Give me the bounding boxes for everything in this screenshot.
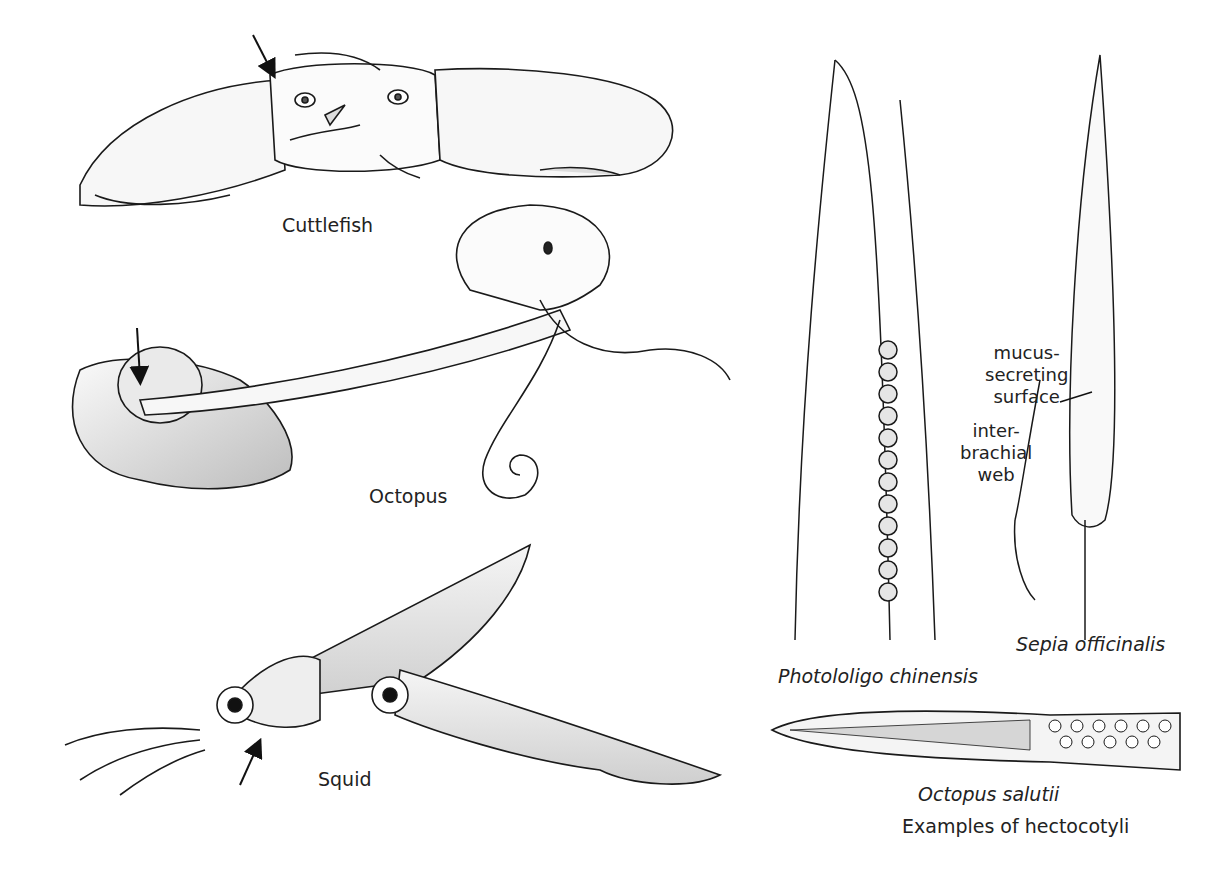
squid-drawing — [65, 545, 720, 795]
octopus-drawing — [73, 205, 731, 498]
label-octopus: Octopus — [369, 485, 447, 507]
label-octopus-salutii: Octopus salutii — [918, 783, 1059, 805]
figure-canvas: Cuttlefish Octopus Squid Photololigo chi… — [0, 0, 1223, 880]
cuttlefish-drawing — [80, 53, 673, 206]
annotation-interbrachial-web: inter- brachial web — [960, 420, 1032, 486]
photololigo-hectocotylus — [795, 60, 935, 640]
label-cuttlefish: Cuttlefish — [282, 214, 373, 236]
label-photololigo: Photololigo chinensis — [778, 665, 978, 687]
label-squid: Squid — [318, 768, 372, 790]
label-sepia: Sepia officinalis — [1016, 633, 1165, 655]
annotation-mucus-surface: mucus- secreting surface — [985, 342, 1068, 408]
caption-hectocotyli: Examples of hectocotyli — [902, 815, 1129, 837]
octopus-salutii-hectocotylus — [772, 711, 1180, 770]
illustration — [0, 0, 1223, 880]
